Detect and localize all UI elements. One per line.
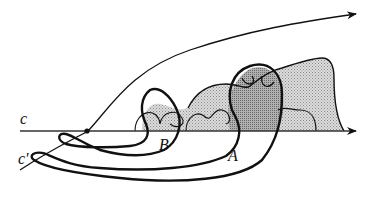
diagram: c c' B A [0,0,368,197]
label-c-prime: c' [18,150,29,167]
label-A: A [227,147,238,164]
label-c: c [20,110,27,127]
label-B: B [159,136,169,153]
intersection-point [84,128,89,133]
